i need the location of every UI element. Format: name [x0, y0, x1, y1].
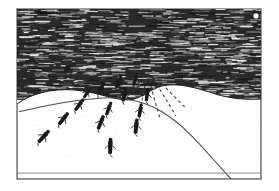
moon-icon	[253, 13, 258, 18]
sky-group	[17, 9, 261, 102]
illustration-frame	[16, 8, 262, 180]
snow-horizon	[17, 85, 261, 179]
illustration-canvas	[17, 9, 261, 179]
artboard	[0, 0, 279, 191]
